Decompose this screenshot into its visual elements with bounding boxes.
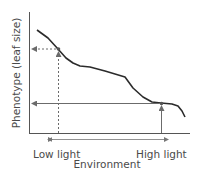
y-axis-label: Phenotype (leaf size) bbox=[10, 18, 22, 129]
reaction-norm-diagram: Phenotype (leaf size) Low light High lig… bbox=[0, 0, 199, 180]
environment-arrow-left-head bbox=[47, 137, 52, 142]
high-light-point bbox=[160, 102, 164, 106]
low-light-point bbox=[57, 47, 61, 51]
high-light-label: High light bbox=[136, 148, 187, 160]
x-axis-label: Environment bbox=[73, 158, 140, 170]
